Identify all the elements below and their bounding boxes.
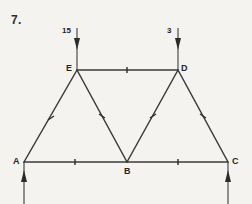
- reaction-arrow-at-c: [225, 162, 231, 204]
- truss-diagram-figure: 7.: [0, 0, 252, 204]
- question-number: 7.: [11, 13, 22, 27]
- node-label-b: B: [124, 167, 131, 176]
- member-ae: [24, 70, 77, 162]
- load-label-d: 3: [167, 27, 171, 35]
- reaction-arrow-at-a: [21, 162, 27, 204]
- node-label-c: C: [232, 157, 239, 166]
- load-label-e: 15: [62, 27, 71, 35]
- member-tick-marks: [48, 67, 206, 165]
- node-label-a: A: [13, 157, 20, 166]
- node-label-d: D: [181, 64, 188, 73]
- node-label-e: E: [66, 64, 72, 73]
- load-arrow-at-e: [74, 28, 80, 70]
